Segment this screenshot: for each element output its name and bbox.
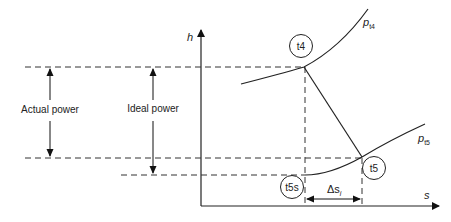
hs-diagram: h s pt4 pt5 t4 t5 t5s Δsi Actual power — [0, 0, 451, 222]
point-t4: t4 — [290, 35, 313, 58]
svg-text:t5s: t5s — [285, 182, 298, 193]
isobar-pt4-label: pt4 — [362, 16, 375, 30]
delta-s-label: Δsi — [327, 183, 342, 197]
expansion-line — [304, 67, 362, 157]
svg-text:t5: t5 — [370, 163, 379, 174]
actual-power-arrowhead-down — [47, 149, 54, 157]
isobar-pt5-label: pt5 — [417, 132, 430, 146]
svg-text:t4: t4 — [297, 41, 306, 52]
ideal-power-label: Ideal power — [127, 103, 179, 114]
delta-s-arrowhead-right — [353, 196, 361, 203]
point-t5s: t5s — [281, 176, 304, 199]
s-axis-label: s — [424, 189, 430, 201]
delta-s-arrowhead-left — [306, 196, 314, 203]
actual-power-arrowhead-up — [47, 68, 54, 76]
actual-power-label: Actual power — [21, 104, 79, 115]
ideal-power-arrowhead-up — [150, 68, 157, 76]
point-t5: t5 — [363, 157, 386, 180]
h-axis-label: h — [187, 31, 193, 43]
ideal-power-arrowhead-down — [150, 166, 157, 174]
